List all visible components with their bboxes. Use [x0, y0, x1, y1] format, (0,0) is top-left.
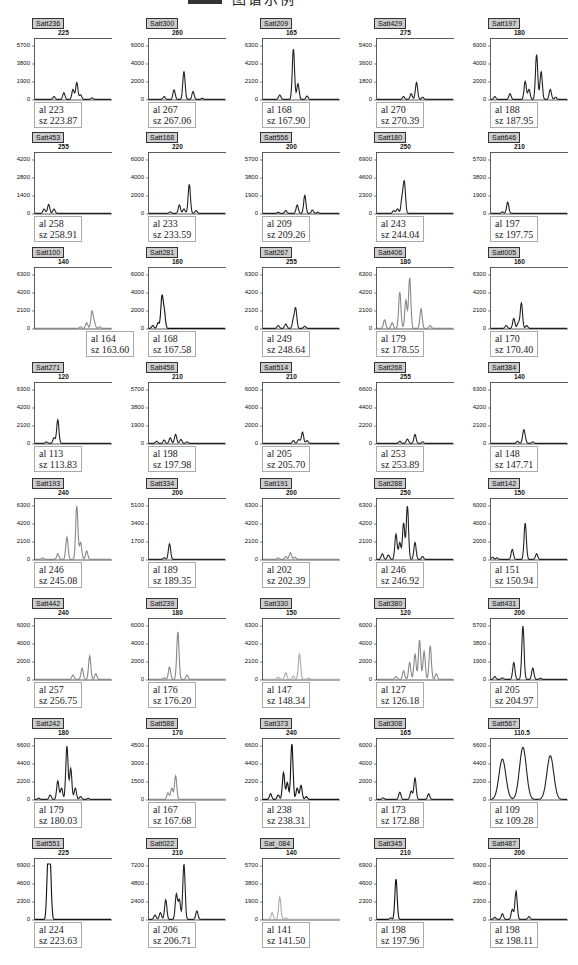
fragment-size: sz 109.28 [495, 815, 533, 826]
electropherogram-plot [148, 738, 226, 800]
electropherogram-plot [376, 38, 454, 100]
y-tick-label: 2200 [350, 422, 372, 428]
size-tick-label: 140 [514, 373, 525, 380]
fragment-size: sz 176.20 [153, 695, 191, 706]
marker-label: Satt453 [32, 132, 64, 143]
y-tick-label: 3800 [236, 880, 258, 886]
marker-panel: Satt1682206000400020000al 233sz 233.59 [122, 132, 232, 247]
y-tick-label: 4200 [464, 404, 486, 410]
marker-label: Satt567 [488, 718, 520, 729]
electropherogram-plot [148, 858, 226, 920]
size-tick-label: 200 [514, 849, 525, 856]
marker-panel: Satt4872006900460023000al 198sz 198.11 [464, 838, 574, 953]
marker-panel: Satt4532554200280014000al 258sz 258.91 [8, 132, 118, 247]
y-tick-label: 4600 [350, 174, 372, 180]
y-tick-label: 2100 [236, 658, 258, 664]
y-tick-label: 2800 [8, 174, 30, 180]
electropherogram-plot [376, 498, 454, 560]
allele-info-box: al 198sz 197.96 [376, 922, 424, 948]
allele-info-box: al 257sz 256.75 [34, 682, 82, 708]
y-tick-label: 4000 [122, 174, 144, 180]
marker-label: Satt180 [374, 132, 406, 143]
allele-call: al 246 [39, 564, 77, 575]
allele-call: al 173 [381, 804, 419, 815]
allele-call: al 151 [495, 564, 533, 575]
marker-label: Satt334 [146, 478, 178, 489]
electropherogram-plot [262, 152, 340, 214]
y-tick-label: 2100 [8, 422, 30, 428]
size-tick-label: 210 [514, 143, 525, 150]
y-tick-label: 5400 [350, 42, 372, 48]
y-tick-label: 1700 [122, 538, 144, 544]
size-tick-label: 180 [514, 29, 525, 36]
marker-panel: Satt2421806600440022000al 179sz 180.03 [8, 718, 118, 833]
allele-info-box: al 238sz 238.31 [262, 802, 310, 828]
size-tick-label: 200 [286, 143, 297, 150]
y-tick-label: 1900 [236, 192, 258, 198]
marker-panel: Sat_0841405700380019000al 141sz 141.50 [236, 838, 346, 953]
y-tick-label: 5700 [464, 622, 486, 628]
marker-panel: Satt2682556600440022000al 253sz 253.89 [350, 362, 460, 477]
y-tick-label: 6000 [122, 156, 144, 162]
y-tick-label: 0 [8, 440, 30, 446]
marker-label: Satt373 [260, 718, 292, 729]
header-marker-box [188, 0, 222, 4]
electropherogram-plot [490, 618, 568, 680]
allele-info-box: al 270sz 270.39 [376, 102, 424, 128]
y-tick-label: 2000 [122, 78, 144, 84]
marker-label: Satt646 [488, 132, 520, 143]
y-tick-label: 6300 [236, 622, 258, 628]
allele-call: al 258 [39, 218, 77, 229]
y-tick-label: 0 [122, 96, 144, 102]
y-tick-label: 0 [350, 556, 372, 562]
electropherogram-plot [148, 267, 226, 329]
y-tick-label: 4000 [350, 640, 372, 646]
fragment-size: sz 148.34 [267, 695, 305, 706]
allele-info-box: al 267sz 267.06 [148, 102, 196, 128]
y-tick-label: 6600 [236, 742, 258, 748]
y-tick-label: 0 [236, 916, 258, 922]
allele-info-box: al 205sz 205.70 [262, 446, 310, 472]
y-tick-label: 4000 [464, 520, 486, 526]
size-tick-label: 210 [400, 849, 411, 856]
y-tick-label: 2100 [464, 307, 486, 313]
marker-label: Satt005 [488, 247, 520, 258]
y-tick-label: 0 [464, 210, 486, 216]
size-tick-label: 120 [58, 373, 69, 380]
y-tick-label: 2100 [464, 422, 486, 428]
size-tick-label: 200 [286, 489, 297, 496]
y-tick-label: 0 [236, 210, 258, 216]
marker-label: Satt308 [374, 718, 406, 729]
electropherogram-plot [262, 38, 340, 100]
marker-label: Satt209 [260, 18, 292, 29]
figure-header: 图谱示例 [0, 0, 578, 6]
marker-panel: Satt4061806300420021000al 179sz 178.55 [350, 247, 460, 362]
y-tick-label: 4800 [122, 880, 144, 886]
y-tick-label: 0 [8, 96, 30, 102]
y-tick-label: 6900 [8, 862, 30, 868]
y-tick-label: 2100 [350, 307, 372, 313]
y-tick-label: 5700 [122, 386, 144, 392]
y-tick-label: 6300 [464, 386, 486, 392]
y-tick-label: 3000 [122, 760, 144, 766]
marker-panel: Satt5512256900460023000al 224sz 223.63 [8, 838, 118, 953]
marker-panel: Satt2362255700380019000al 223sz 223.87 [8, 18, 118, 133]
y-tick-label: 6000 [122, 271, 144, 277]
fragment-size: sz 270.39 [381, 115, 419, 126]
y-tick-label: 4600 [350, 880, 372, 886]
allele-info-box: al 176sz 176.20 [148, 682, 196, 708]
allele-info-box: al 223sz 223.87 [34, 102, 82, 128]
y-tick-label: 6600 [8, 742, 30, 748]
electropherogram-plot [262, 382, 340, 444]
y-tick-label: 6600 [350, 386, 372, 392]
fragment-size: sz 167.58 [153, 344, 191, 355]
allele-info-box: al 205sz 204.97 [490, 682, 538, 708]
y-tick-label: 2100 [8, 538, 30, 544]
electropherogram-plot [376, 382, 454, 444]
fragment-size: sz 141.50 [267, 935, 305, 946]
y-tick-label: 2200 [236, 778, 258, 784]
marker-panel: Satt5142106000400020000al 205sz 205.70 [236, 362, 346, 477]
size-tick-label: 180 [172, 609, 183, 616]
size-tick-label: 225 [58, 29, 69, 36]
marker-label: Satt458 [146, 362, 178, 373]
